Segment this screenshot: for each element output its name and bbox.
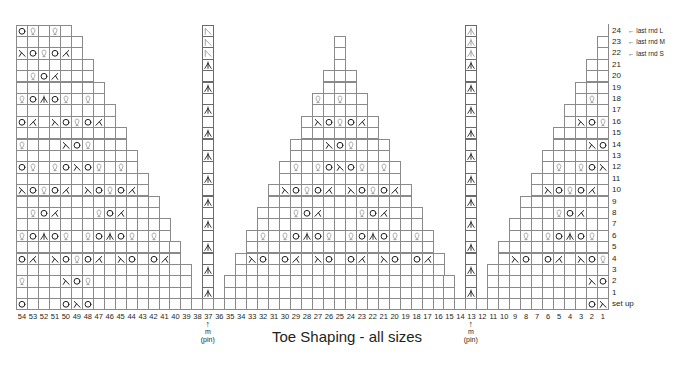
twisted-loop-make-one-icon [291,162,301,172]
column-number: 51 [49,312,60,321]
right-slanting-decrease-icon [576,117,586,127]
column-number: 1 [597,312,608,321]
centered-double-decrease-icon [466,242,476,252]
row-note: ← last rnd S [628,50,664,57]
twisted-loop-make-one-icon [39,185,49,195]
yarn-over-icon [17,162,27,172]
centered-double-decrease-icon [203,219,213,229]
row-note: ← last rnd M [628,38,665,45]
centered-double-decrease-icon [105,231,115,241]
twisted-loop-make-one-icon [379,162,389,172]
right-slanting-decrease-icon [17,185,27,195]
twisted-loop-make-one-icon [587,94,597,104]
twisted-loop-make-one-icon [50,162,60,172]
twisted-loop-make-one-icon [83,140,93,150]
yarn-over-icon [28,94,38,104]
right-slanting-decrease-icon [50,254,60,264]
twisted-loop-make-one-icon [368,185,378,195]
yarn-over-icon [17,117,27,127]
column-number: 15 [444,312,455,321]
twisted-loop-make-one-icon [587,231,597,241]
twisted-loop-make-one-icon [83,231,93,241]
twisted-loop-make-one-icon [554,162,564,172]
right-slanting-decrease-icon [379,254,389,264]
column-number: 11 [488,312,499,321]
row-number: 10 [612,185,621,194]
left-slanting-decrease-icon [576,208,586,218]
right-slanting-decrease-icon [346,185,356,195]
column-number: 28 [302,312,313,321]
right-slanting-decrease-icon [313,117,323,127]
column-number: 2 [586,312,597,321]
centered-double-decrease-icon [466,60,476,70]
right-slanting-decrease-icon [587,140,597,150]
row-number: 23 [612,37,621,46]
column-number: 4 [565,312,576,321]
column-number: 25 [334,312,345,321]
twisted-loop-make-one-icon [39,48,49,58]
column-number: 39 [181,312,192,321]
chart-right-edge [608,24,609,310]
column-number: 42 [148,312,159,321]
yarn-over-icon [50,185,60,195]
yarn-over-icon [346,117,356,127]
yarn-over-icon [280,254,290,264]
left-slanting-decrease-icon [127,185,137,195]
row-number: 5 [612,242,616,251]
yarn-over-icon [565,208,575,218]
yarn-over-icon [116,231,126,241]
twisted-loop-make-one-icon [335,117,345,127]
twisted-loop-make-one-icon [72,254,82,264]
twisted-loop-make-one-icon [28,26,38,36]
right-slanting-decrease-icon [61,276,71,286]
yarn-over-icon [324,254,334,264]
yarn-over-icon [50,94,60,104]
centered-double-decrease-last-round-ghosted-icon [466,48,476,58]
twisted-loop-make-one-icon [313,162,323,172]
yarn-over-icon [412,254,422,264]
yarn-over-icon [116,185,126,195]
column-number: 7 [532,312,543,321]
yarn-over-icon [379,185,389,195]
yarn-over-icon [50,231,60,241]
left-slanting-decrease-icon [116,208,126,218]
twisted-loop-make-one-icon [17,94,27,104]
column-number: 24 [345,312,356,321]
yarn-over-icon [598,140,608,150]
twisted-loop-make-one-icon [28,208,38,218]
row-number: 2 [612,276,616,285]
centered-double-decrease-icon [302,231,312,241]
twisted-loop-make-one-icon [390,231,400,241]
twisted-loop-make-one-icon [335,94,345,104]
twisted-loop-make-one-icon [50,26,60,36]
left-slanting-decrease-icon [50,71,60,81]
yarn-over-icon [94,185,104,195]
twisted-loop-make-one-icon [412,231,422,241]
twisted-loop-make-one-icon [127,231,137,241]
twisted-loop-make-one-icon [357,162,367,172]
column-number: 22 [367,312,378,321]
right-slanting-decrease-icon [510,254,520,264]
row-number: 3 [612,265,616,274]
yarn-over-icon [291,185,301,195]
column-number: 52 [38,312,49,321]
twisted-loop-make-one-icon [61,231,71,241]
column-number: 26 [323,312,334,321]
marker-label: m [459,328,483,336]
centered-double-decrease-icon [466,288,476,298]
yarn-over-icon [105,208,115,218]
yarn-over-icon [94,231,104,241]
centered-double-decrease-icon [203,60,213,70]
left-slanting-decrease-icon [61,185,71,195]
twisted-loop-make-one-icon [94,208,104,218]
twisted-loop-make-one-icon [83,94,93,104]
right-slanting-decrease-icon [72,299,82,309]
row-number: 20 [612,71,621,80]
left-slanting-decrease-icon [554,254,564,264]
centered-double-decrease-icon [466,83,476,93]
yarn-over-icon [61,254,71,264]
column-number: 5 [554,312,565,321]
column-number: 21 [378,312,389,321]
yarn-over-icon [83,162,93,172]
yarn-over-icon [50,48,60,58]
